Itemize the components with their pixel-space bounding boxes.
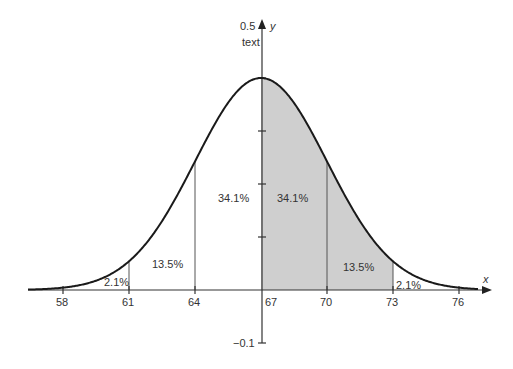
normal-distribution-chart — [0, 0, 513, 369]
pct-label-70-73: 13.5% — [343, 262, 374, 273]
pct-label-58-61: 2.1% — [104, 277, 129, 288]
y-text-label: text — [242, 37, 260, 48]
pct-label-73-76: 2.1% — [396, 280, 421, 291]
x-tick-label-61: 61 — [122, 297, 134, 308]
y-max-label: 0.5 — [240, 21, 255, 32]
pct-label-61-64: 13.5% — [152, 259, 183, 270]
x-tick-label-67: 67 — [265, 297, 277, 308]
x-tick-label-64: 64 — [188, 297, 200, 308]
x-axis-arrow-icon — [482, 286, 492, 294]
bell-curve — [28, 78, 478, 290]
pct-label-67-70: 34.1% — [277, 193, 308, 204]
pct-label-64-67: 34.1% — [218, 193, 249, 204]
x-tick-label-58: 58 — [56, 297, 68, 308]
y-axis-label: y — [270, 21, 276, 32]
y-min-label: −0.1 — [233, 338, 255, 349]
y-axis-arrow-icon — [258, 19, 266, 29]
x-tick-label-76: 76 — [452, 297, 464, 308]
x-axis-label: x — [483, 274, 489, 285]
x-tick-label-73: 73 — [386, 297, 398, 308]
x-tick-label-70: 70 — [320, 297, 332, 308]
